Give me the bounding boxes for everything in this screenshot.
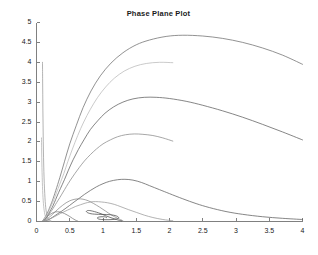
y-axis-tick-label: 2 — [0, 137, 32, 144]
y-axis-tick-label: 4 — [0, 58, 32, 65]
trajectory-line — [42, 62, 51, 221]
y-axis-tick-label: 0.5 — [0, 197, 32, 204]
y-axis-tick-label: 2.5 — [0, 118, 32, 125]
trajectory-line — [86, 210, 121, 220]
trajectory-curves — [41, 35, 302, 221]
y-axis-tick-label: 4.5 — [0, 38, 32, 45]
trajectory-line — [45, 179, 302, 221]
phase-plane-figure: Phase Plane Plot 00.511.522.533.544.5500… — [0, 0, 317, 255]
trajectory-line — [44, 97, 302, 220]
y-axis-tick-label: 0 — [0, 217, 32, 224]
plot-canvas — [0, 0, 317, 255]
y-axis-tick-label: 5 — [0, 18, 32, 25]
tick-marks — [37, 23, 303, 222]
axes — [37, 23, 303, 222]
y-axis-tick-label: 3.5 — [0, 78, 32, 85]
trajectory-line — [45, 202, 173, 221]
y-axis-tick-label: 1.5 — [0, 157, 32, 164]
y-axis-tick-label: 1 — [0, 177, 32, 184]
x-axis-tick-label: 4 — [283, 227, 318, 234]
y-axis-tick-label: 3 — [0, 98, 32, 105]
trajectory-line — [44, 134, 173, 220]
